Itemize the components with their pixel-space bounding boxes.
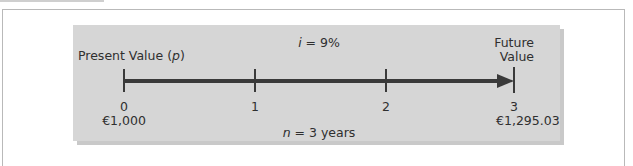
periods-value: = 3 years <box>291 125 356 140</box>
tick-2 <box>385 69 387 92</box>
future-amount: €1,295.03 <box>496 114 560 128</box>
period-0-label: 0 <box>120 100 128 114</box>
present-value-text: Present Value ( <box>78 48 172 63</box>
present-amount: €1,000 <box>102 114 146 128</box>
future-value-line2: Value <box>470 50 534 64</box>
period-3-label: 3 <box>510 100 518 114</box>
period-1-label: 1 <box>251 100 259 114</box>
arrow-head-icon <box>497 74 514 88</box>
interest-rate-value: = 9% <box>302 35 340 50</box>
future-value-label: Future Value <box>470 36 534 64</box>
period-2-label: 2 <box>382 100 390 114</box>
interest-rate-label: i = 9% <box>298 36 340 50</box>
periods-symbol: n <box>283 125 291 140</box>
tick-3 <box>513 67 515 93</box>
present-value-symbol: p <box>172 48 180 63</box>
top-tab-rule <box>0 0 104 2</box>
tick-0 <box>123 69 125 92</box>
tick-1 <box>254 69 256 92</box>
periods-label: n = 3 years <box>283 126 356 140</box>
future-value-line1: Future <box>470 36 534 50</box>
timeline-bar <box>124 79 499 83</box>
present-value-close: ) <box>180 48 185 63</box>
present-value-label: Present Value (p) <box>78 49 185 63</box>
